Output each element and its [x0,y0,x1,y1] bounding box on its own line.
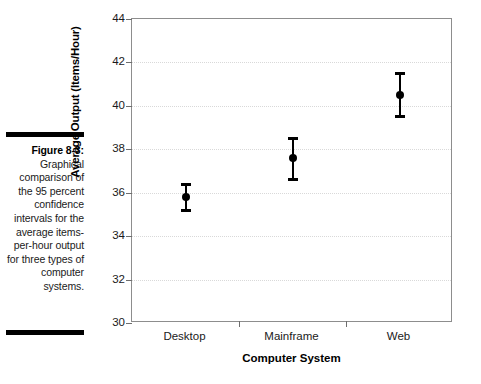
y-axis-tick-labels: 3032343638404244 [97,18,125,322]
y-tick-mark [126,149,132,150]
x-tick-label: Mainframe [264,330,318,342]
data-point-marker [396,91,404,99]
gridline [132,106,451,107]
y-axis-title: Average Output (Items/Hour) [69,0,81,207]
x-axis-tick-labels: DesktopMainframeWeb [131,330,452,346]
error-bar-cap-lower [181,209,191,212]
y-tick-label: 32 [99,273,125,285]
error-bar-cap-lower [288,178,298,181]
y-tick-mark [126,193,132,194]
x-tick-mark [239,321,240,327]
y-tick-label: 44 [99,12,125,24]
error-bar-cap-upper [395,72,405,75]
error-bar-cap-lower [395,115,405,118]
gridline [132,236,451,237]
x-axis-title: Computer System [131,352,452,364]
y-tick-label: 42 [99,55,125,67]
gridline [132,193,451,194]
data-point-marker [289,154,297,162]
y-tick-mark [126,62,132,63]
y-tick-label: 36 [99,186,125,198]
y-tick-mark [126,236,132,237]
y-tick-label: 30 [99,316,125,328]
y-tick-mark [126,106,132,107]
error-bar-cap-upper [288,137,298,140]
y-tick-label: 40 [99,99,125,111]
y-tick-label: 38 [99,142,125,154]
data-point-marker [182,193,190,201]
plot-area [131,18,452,322]
x-tick-label: Web [387,330,410,342]
gridline [132,62,451,63]
error-bar-cap-upper [181,183,191,186]
x-tick-mark [346,321,347,327]
gridline [132,280,451,281]
x-tick-label: Desktop [163,330,205,342]
figure-chart: Average Output (Items/Hour) 303234363840… [0,0,481,384]
y-tick-mark [126,323,132,324]
y-tick-mark [126,19,132,20]
y-tick-mark [126,280,132,281]
y-tick-label: 34 [99,229,125,241]
